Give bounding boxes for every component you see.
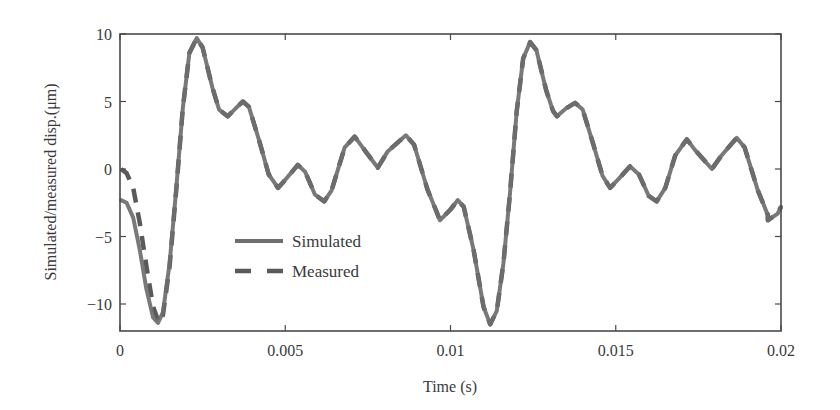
y-tick-label: −5 [95, 229, 112, 246]
legend-label-measured: Measured [292, 262, 360, 281]
x-axis: 00.0050.010.0150.02 [116, 34, 795, 359]
x-tick-label: 0.005 [267, 342, 303, 359]
y-tick-label: −10 [87, 296, 112, 313]
legend: Simulated Measured [235, 232, 361, 281]
x-tick-label: 0.01 [437, 342, 465, 359]
x-tick-label: 0.02 [767, 342, 795, 359]
x-tick-label: 0 [116, 342, 124, 359]
series-line-measured [121, 38, 781, 324]
plot-frame [120, 34, 781, 331]
y-tick-label: 10 [96, 26, 112, 43]
series-line-simulated [121, 38, 781, 324]
y-tick-label: 0 [104, 161, 112, 178]
y-axis-label: Simulated/measured disp.(μm) [42, 84, 60, 281]
legend-label-simulated: Simulated [292, 232, 361, 251]
line-chart: 00.0050.010.0150.02 −10−50510 Time (s) S… [0, 0, 840, 410]
y-tick-label: 5 [104, 94, 112, 111]
x-axis-label: Time (s) [423, 378, 477, 396]
y-axis: −10−50510 [87, 26, 781, 313]
x-tick-label: 0.015 [598, 342, 634, 359]
plot-area [121, 38, 781, 324]
